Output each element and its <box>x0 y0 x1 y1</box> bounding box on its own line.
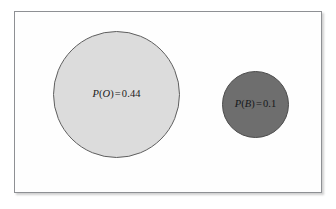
equals-sign: = <box>115 88 121 99</box>
outcome-o-region[interactable]: P(O)=0.44 <box>53 31 180 158</box>
close-paren: ) <box>110 88 114 99</box>
outcome-o-label: P(O)=0.44 <box>92 89 140 100</box>
diagram-panel: P(O)=0.44 P(B)=0.1 <box>14 11 322 193</box>
probability-venn-figure: P(O)=0.44 P(B)=0.1 <box>0 0 336 209</box>
equals-sign: = <box>256 98 262 109</box>
close-paren: ) <box>251 98 255 109</box>
outcome-b-label: P(B)=0.1 <box>235 99 277 110</box>
probability-value-o: 0.44 <box>122 88 141 99</box>
outcome-b-region[interactable]: P(B)=0.1 <box>222 71 289 138</box>
probability-value-b: 0.1 <box>263 98 276 109</box>
